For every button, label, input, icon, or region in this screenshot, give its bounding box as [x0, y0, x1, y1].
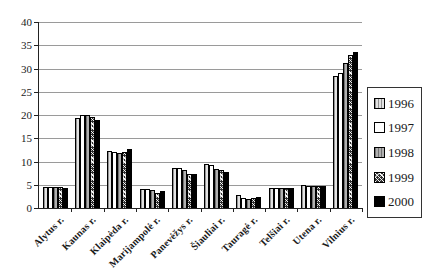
y-axis-tick-label: 0	[6, 203, 32, 214]
bar-2000	[63, 188, 68, 208]
x-axis-tick	[297, 208, 298, 212]
x-axis-tick	[104, 208, 105, 212]
bar-2000	[192, 174, 197, 208]
x-axis-tick	[168, 208, 169, 212]
legend-swatch-2000-icon	[374, 196, 385, 207]
x-axis-tick	[330, 208, 331, 212]
bar-2000	[95, 120, 100, 208]
bar-chart-figure: 0510152025303540 Alytus r.Kaunas r.Klaip…	[0, 0, 431, 271]
y-axis-tick	[34, 208, 39, 209]
bar-2000	[224, 172, 229, 208]
bar-group--iauliai-r-	[201, 22, 233, 208]
y-axis-tick-label: 15	[6, 133, 32, 144]
bar-group-kaunas-r-	[71, 22, 103, 208]
x-axis-category-label: Telšiai r.	[257, 214, 292, 249]
bar-group-alytus-r-	[39, 22, 71, 208]
x-axis-tick	[265, 208, 266, 212]
x-axis-category-label: Vilnius r.	[320, 214, 357, 251]
y-axis-tick-label: 30	[6, 64, 32, 75]
legend: 19961997199819992000	[367, 87, 422, 218]
bar-group-klaip-da-r-	[104, 22, 136, 208]
bar-2000	[353, 52, 358, 208]
bar-2000	[160, 191, 165, 208]
bar-2000	[256, 197, 261, 208]
y-axis-tick-label: 5	[6, 180, 32, 191]
x-axis-tick	[233, 208, 234, 212]
bar-group-taurag-r-	[233, 22, 265, 208]
legend-swatch-1998-icon	[374, 147, 385, 158]
bar-2000	[289, 188, 294, 208]
legend-swatch-1997-icon	[374, 122, 385, 133]
legend-item-1996: 1996	[374, 97, 421, 110]
bar-group-panev-ys-r-	[168, 22, 200, 208]
y-axis-tick-label: 10	[6, 157, 32, 168]
bar-group-marijampol-r-	[136, 22, 168, 208]
legend-item-1999: 1999	[374, 171, 421, 184]
y-axis-tick-label: 20	[6, 110, 32, 121]
y-axis-tick-label: 35	[6, 40, 32, 51]
legend-swatch-1996-icon	[374, 98, 385, 109]
legend-item-1998: 1998	[374, 146, 421, 159]
y-axis-tick-label: 40	[6, 17, 32, 28]
y-axis-tick-label: 25	[6, 87, 32, 98]
plot-area	[38, 22, 362, 209]
legend-label: 1999	[388, 171, 414, 184]
bar-group-utena-r-	[297, 22, 329, 208]
legend-item-1997: 1997	[374, 121, 421, 134]
legend-swatch-1999-icon	[374, 172, 385, 183]
bar-2000	[127, 149, 132, 208]
legend-label: 1998	[388, 146, 414, 159]
x-axis-tick	[362, 208, 363, 212]
bar-2000	[321, 186, 326, 208]
bar-group-vilnius-r-	[330, 22, 362, 208]
legend-label: 1997	[388, 121, 414, 134]
legend-label: 2000	[388, 195, 414, 208]
x-axis-tick	[201, 208, 202, 212]
legend-item-2000: 2000	[374, 195, 421, 208]
bar-group-tel-iai-r-	[265, 22, 297, 208]
x-axis-tick	[136, 208, 137, 212]
legend-label: 1996	[388, 97, 414, 110]
x-axis-tick	[71, 208, 72, 212]
